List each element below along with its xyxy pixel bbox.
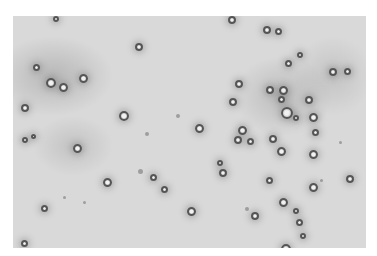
particle [266, 177, 273, 184]
dark-speck [320, 179, 323, 182]
particle [277, 147, 286, 156]
particle [309, 150, 318, 159]
particle [21, 104, 29, 112]
particle [309, 113, 318, 122]
particle [293, 115, 299, 121]
dark-speck [245, 207, 249, 211]
particle [228, 16, 236, 24]
particle [73, 144, 82, 153]
particle [285, 60, 292, 67]
particle [217, 160, 223, 166]
dark-speck [83, 201, 86, 204]
particle [279, 198, 288, 207]
particle [269, 135, 277, 143]
particle [135, 43, 143, 51]
particle [59, 83, 68, 92]
particle [297, 52, 303, 58]
particle [279, 86, 288, 95]
particle [161, 186, 168, 193]
dark-speck [63, 196, 66, 199]
particle [247, 138, 254, 145]
particle [195, 124, 204, 133]
particle [79, 74, 88, 83]
particle [41, 205, 48, 212]
dark-speck [138, 169, 143, 174]
particle [46, 78, 56, 88]
particle [238, 126, 247, 135]
particle [300, 233, 306, 239]
particle [235, 80, 243, 88]
particle [275, 28, 282, 35]
particle [22, 137, 28, 143]
particle [33, 64, 40, 71]
particle [251, 212, 259, 220]
particle [312, 129, 319, 136]
particle [234, 136, 242, 144]
particle [53, 16, 59, 22]
particle [263, 26, 271, 34]
micrograph [13, 16, 366, 248]
dark-speck [145, 132, 149, 136]
particle [21, 240, 28, 247]
particle [187, 207, 196, 216]
particle [266, 86, 274, 94]
particle [31, 134, 36, 139]
particle [344, 68, 351, 75]
particle [296, 219, 303, 226]
particle [278, 96, 285, 103]
particle [219, 169, 227, 177]
particle [309, 183, 318, 192]
dark-speck [176, 114, 180, 118]
particle [281, 244, 291, 248]
particle [119, 111, 129, 121]
particle [281, 107, 293, 119]
particle [150, 174, 157, 181]
particle [305, 96, 313, 104]
particle [229, 98, 237, 106]
particle [293, 208, 299, 214]
particle [329, 68, 337, 76]
dark-speck [339, 141, 342, 144]
particle [346, 175, 354, 183]
particle [103, 178, 112, 187]
